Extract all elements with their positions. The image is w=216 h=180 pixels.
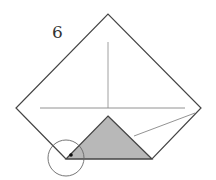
- reference-dot: [69, 153, 73, 157]
- step-number: 6: [52, 22, 63, 42]
- shaded-flap: [66, 116, 152, 159]
- origami-diagram: 6: [0, 0, 216, 180]
- fold-diagram-svg: [0, 0, 216, 180]
